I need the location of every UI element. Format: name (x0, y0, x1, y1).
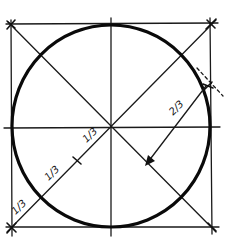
arrow-end-mark (203, 82, 213, 90)
arrow-shaft (148, 86, 206, 162)
label-two-thirds: 2/3 (167, 98, 186, 117)
circle-in-square-diagram: 2/3 1/3 1/3 1/3 (0, 0, 229, 243)
corner-mark-tr (206, 19, 216, 29)
arrow-head-icon (145, 155, 155, 166)
